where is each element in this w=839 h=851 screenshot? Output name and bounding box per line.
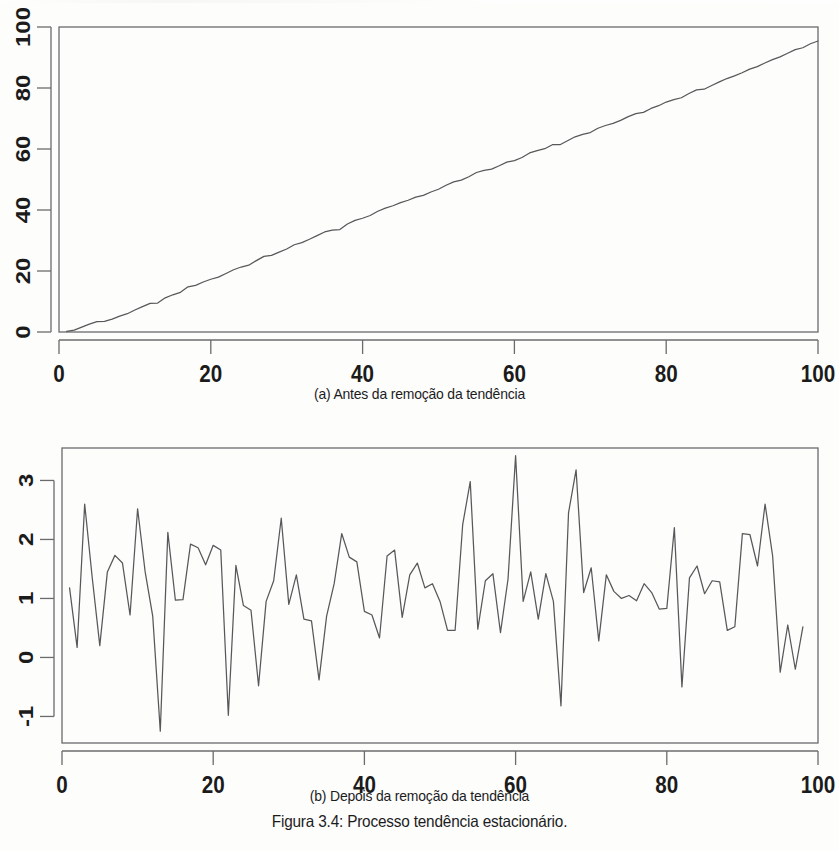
data-series-line xyxy=(70,456,803,732)
y-tick-label-group: 1 xyxy=(15,592,38,605)
y-tick-label: 3 xyxy=(15,474,38,487)
plot-frame xyxy=(59,27,818,332)
y-tick-label: 0 xyxy=(12,325,35,338)
x-tick-label: 100 xyxy=(801,361,835,388)
caption-panel-a: (a) Antes da remoção da tendência xyxy=(29,385,809,402)
y-tick-label: 40 xyxy=(12,197,35,224)
x-tick-label: 60 xyxy=(503,361,526,388)
y-tick-label: 20 xyxy=(12,258,35,285)
y-tick-label: 0 xyxy=(15,651,38,664)
y-tick-label-group: 3 xyxy=(15,474,38,487)
y-tick-label-group: 20 xyxy=(12,258,35,285)
y-tick-label-group: 0 xyxy=(12,325,35,338)
x-tick-label: 80 xyxy=(655,361,678,388)
y-tick-label-group: 60 xyxy=(12,136,35,163)
chart-panel-depois: 020406080100-10123 xyxy=(0,421,839,796)
caption-panel-b: (b) Depois da remoção da tendência xyxy=(29,787,809,804)
y-tick-label-group: 80 xyxy=(12,75,35,102)
y-tick-label-group: 2 xyxy=(15,533,38,546)
chart-panel-antes: 020406080100020406080100 xyxy=(0,0,839,402)
line-chart-depois: 020406080100-10123 xyxy=(0,421,839,796)
y-tick-label-group: -1 xyxy=(15,706,38,727)
figure-page: 020406080100020406080100 (a) Antes da re… xyxy=(0,0,839,851)
y-tick-label: 1 xyxy=(15,592,38,605)
line-chart-antes: 020406080100020406080100 xyxy=(0,0,839,402)
y-tick-label: 60 xyxy=(12,136,35,163)
x-tick-label: 20 xyxy=(199,361,222,388)
y-tick-label: 80 xyxy=(12,75,35,102)
y-tick-label-group: 100 xyxy=(12,7,35,47)
figure-caption: Figura 3.4: Processo tendência estacioná… xyxy=(29,812,809,831)
y-tick-label-group: 0 xyxy=(15,651,38,664)
x-tick-label: 40 xyxy=(351,361,374,388)
y-tick-label-group: 40 xyxy=(12,197,35,224)
y-tick-label: 100 xyxy=(12,7,35,47)
x-tick-label: 0 xyxy=(53,361,64,388)
data-series-line xyxy=(67,41,818,331)
y-tick-label: 2 xyxy=(15,533,38,546)
y-tick-label: -1 xyxy=(15,706,38,727)
